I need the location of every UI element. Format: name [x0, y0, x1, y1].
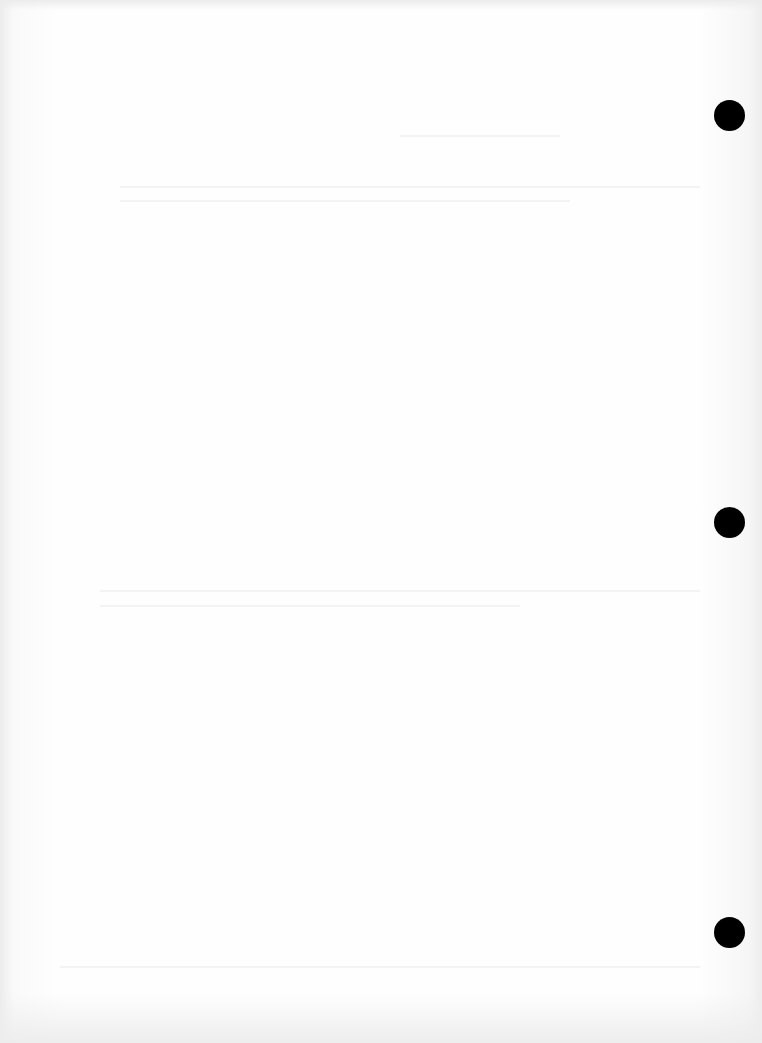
scan-edge-top	[0, 0, 762, 10]
hole-punch-top	[714, 100, 745, 131]
bleed-through-mark	[60, 966, 700, 968]
scan-edge-bottom	[0, 993, 762, 1043]
hole-punch-middle	[714, 507, 745, 538]
bleed-through-mark	[400, 135, 560, 137]
bleed-through-mark	[100, 605, 520, 607]
blank-page	[0, 0, 762, 1043]
bleed-through-mark	[100, 590, 700, 592]
bleed-through-mark	[120, 200, 570, 202]
hole-punch-bottom	[714, 917, 745, 948]
bleed-through-mark	[120, 186, 700, 188]
